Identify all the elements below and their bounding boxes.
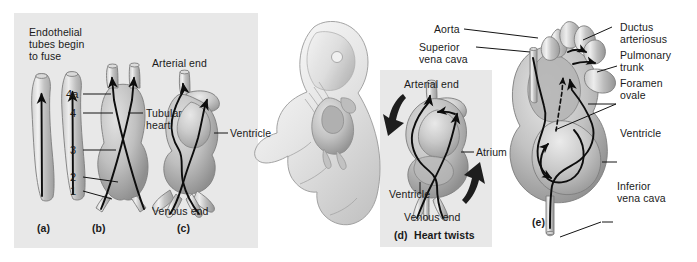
stage-label-2: 2 — [70, 171, 76, 183]
label-inferior-vena-cava-line1: Inferior — [617, 180, 650, 192]
label-arterial-end-c: Arterial end — [152, 57, 207, 69]
label-atrium-d: Atrium — [476, 146, 507, 158]
label-aorta: Aorta — [434, 23, 460, 35]
label-foramen-ovale-line2: ovale — [620, 89, 646, 101]
caption-d-id: (d) — [394, 229, 408, 241]
endothelial-heading-line1: Endothelial — [29, 26, 82, 38]
label-inferior-vena-cava-line2: vena cava — [617, 192, 666, 204]
label-foramen-ovale-line1: Foramen — [620, 77, 663, 89]
stage-label-4a: 4a — [66, 88, 78, 100]
label-ventricle-d: Ventricle — [389, 188, 430, 200]
caption-e: (e) — [532, 216, 545, 228]
endothelial-heading-line3: to fuse — [29, 50, 61, 62]
caption-a: (a) — [37, 222, 50, 234]
panel-b-tubular-heart — [83, 63, 148, 212]
caption-b: (b) — [92, 222, 106, 234]
heart-development-figure: Endothelial tubes begin to fuse 4a 4 3 2… — [0, 0, 697, 262]
stage-label-1: 1 — [70, 185, 76, 197]
label-ventricle-e: Ventricle — [620, 127, 661, 139]
rotation-arrow-left — [383, 94, 406, 136]
label-ductus-arteriosus-line1: Ductus — [620, 21, 653, 33]
label-tubular-heart-line2: heart — [146, 119, 170, 131]
label-ventricle-c: Ventricle — [230, 127, 271, 139]
label-venous-end-d: Venous end — [404, 211, 460, 223]
stage-label-3: 3 — [70, 144, 76, 156]
panel-c-looping-heart — [153, 70, 228, 217]
label-superior-vena-cava-line1: Superior — [419, 41, 460, 53]
endothelial-heading-line2: tubes begin — [29, 38, 84, 50]
embryo-illustration — [255, 21, 380, 224]
panel-e-fetal-heart — [464, 22, 617, 237]
label-arterial-end-d: Arterial end — [404, 78, 459, 90]
label-venous-end-c: Venous end — [152, 205, 208, 217]
label-tubular-heart-line1: Tubular — [146, 107, 182, 119]
label-superior-vena-cava-line2: vena cava — [419, 53, 468, 65]
caption-c: (c) — [177, 222, 190, 234]
label-ductus-arteriosus-line2: arteriosus — [620, 33, 667, 45]
stage-label-4: 4 — [70, 107, 76, 119]
caption-d-text: Heart twists — [414, 229, 475, 241]
label-pulmonary-trunk-line1: Pulmonary — [620, 49, 671, 61]
label-pulmonary-trunk-line2: trunk — [620, 61, 644, 73]
